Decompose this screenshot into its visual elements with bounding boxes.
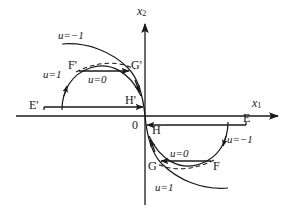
point-label-h: H xyxy=(152,124,161,136)
control-label-u-minus-1-lower: u=−1 xyxy=(227,134,253,145)
figure-canvas xyxy=(0,0,294,211)
point-label-g-prime: G' xyxy=(131,59,142,71)
point-label-f-prime: F' xyxy=(68,59,77,71)
control-label-u-0-upper: u=0 xyxy=(88,74,106,85)
origin-label: 0 xyxy=(132,119,138,131)
point-label-h-prime: H' xyxy=(125,94,136,106)
arrow-e-prime-to-h-prime xyxy=(44,107,143,110)
arrow-e-to-h xyxy=(147,122,246,125)
control-label-u-1-upper: u=1 xyxy=(43,69,61,80)
point-label-e-prime: E' xyxy=(29,99,39,111)
control-label-u-0-lower: u=0 xyxy=(170,148,188,159)
point-label-e: E xyxy=(243,112,250,124)
point-label-f: F xyxy=(213,160,220,172)
axis-label-x1: x1 xyxy=(252,97,261,110)
phase-plane-figure: x2 x1 0 E' F' G' H' u=−1 u=1 u=0 E F G H… xyxy=(0,0,294,211)
point-label-g: G xyxy=(148,160,157,172)
axis-label-x2: x2 xyxy=(137,5,146,18)
control-label-u-minus-1-upper: u=−1 xyxy=(58,30,84,41)
control-label-u-1-lower: u=1 xyxy=(155,182,173,193)
